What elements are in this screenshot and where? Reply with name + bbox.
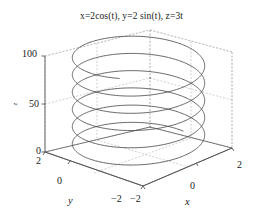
- plot-title: x=2cos(t), y=2 sin(t), z=3t: [80, 12, 183, 22]
- z-tick-label-100: 100: [22, 49, 37, 59]
- plot-3d-axes: [0, 0, 263, 224]
- y-tick-label-minus-2: −2: [111, 194, 122, 204]
- x-axis-label: x: [185, 197, 190, 208]
- z-tick-label-50: 50: [29, 99, 39, 109]
- x-axis-ticks: [143, 148, 234, 189]
- x-tick-label-2: 2: [237, 160, 242, 170]
- axes-box-floor: [45, 127, 232, 186]
- y-tick-label-2: 2: [36, 156, 41, 166]
- y-axis-label: y: [68, 196, 73, 207]
- z-axis-label: z: [12, 103, 18, 105]
- x-tick-label-minus-2: −2: [130, 194, 141, 204]
- helix-curve: [72, 36, 204, 165]
- z-axis-ticks: [42, 56, 46, 152]
- figure-canvas: x=2cos(t), y=2 sin(t), z=3t z 100 50 0 2…: [0, 0, 263, 224]
- axes-box-back-walls: [45, 30, 232, 152]
- x-tick-label-0: 0: [190, 181, 195, 191]
- y-tick-label-0: 0: [57, 176, 62, 186]
